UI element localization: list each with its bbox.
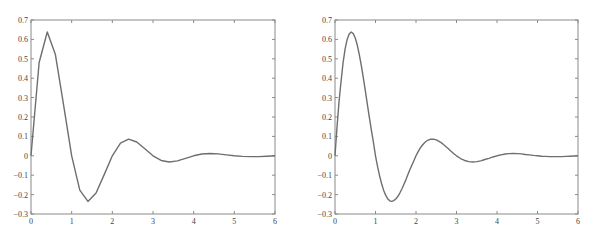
y-tick-label: −0.1 <box>13 171 28 180</box>
y-tick-label: −0.3 <box>317 210 332 219</box>
x-tick-label: 5 <box>536 217 540 226</box>
x-tick-label: 4 <box>192 217 196 226</box>
chart-2: 01234560.70.60.50.40.30.20.10−0.1−0.2−0.… <box>317 16 580 226</box>
chart-1: 01234560.70.60.50.40.30.20.10−0.1−0.2−0.… <box>13 16 277 226</box>
y-tick-label: 0.2 <box>322 113 332 122</box>
figure-canvas: 01234560.70.60.50.40.30.20.10−0.1−0.2−0.… <box>0 0 595 239</box>
y-tick-label: 0.3 <box>18 94 28 103</box>
x-tick-label: 4 <box>495 217 499 226</box>
x-tick-label: 6 <box>273 217 277 226</box>
y-tick-label: 0.6 <box>18 35 28 44</box>
y-tick-label: 0.1 <box>18 132 28 141</box>
y-tick-label: 0.5 <box>18 55 28 64</box>
x-tick-label: 2 <box>110 217 114 226</box>
y-tick-label: −0.2 <box>13 191 28 200</box>
x-tick-label: 0 <box>333 217 337 226</box>
y-tick-label: −0.1 <box>317 171 332 180</box>
axes-frame <box>31 20 275 214</box>
y-tick-label: 0.4 <box>322 74 332 83</box>
series-line-fine <box>335 32 578 201</box>
y-tick-label: 0 <box>24 152 28 161</box>
x-tick-label: 3 <box>151 217 155 226</box>
x-tick-label: 1 <box>70 217 74 226</box>
series-line-coarse <box>31 32 275 201</box>
x-tick-label: 6 <box>576 217 580 226</box>
x-tick-label: 2 <box>414 217 418 226</box>
y-tick-label: 0.7 <box>322 16 332 25</box>
y-tick-label: 0.5 <box>322 55 332 64</box>
y-tick-label: 0.3 <box>322 94 332 103</box>
y-tick-label: 0.7 <box>18 16 28 25</box>
y-tick-label: 0 <box>328 152 332 161</box>
x-tick-label: 3 <box>455 217 459 226</box>
y-tick-label: 0.6 <box>322 35 332 44</box>
y-tick-label: 0.1 <box>322 132 332 141</box>
y-tick-label: −0.2 <box>317 191 332 200</box>
y-tick-label: 0.4 <box>18 74 28 83</box>
x-tick-label: 0 <box>29 217 33 226</box>
axes-frame <box>335 20 578 214</box>
y-tick-label: 0.2 <box>18 113 28 122</box>
x-tick-label: 5 <box>232 217 236 226</box>
y-tick-label: −0.3 <box>13 210 28 219</box>
x-tick-label: 1 <box>374 217 378 226</box>
